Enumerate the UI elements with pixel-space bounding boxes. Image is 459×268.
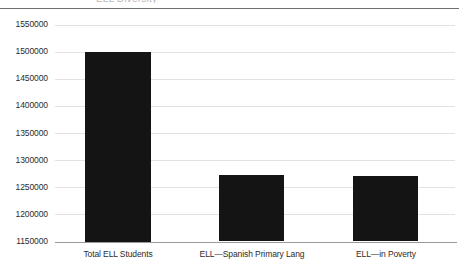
gridline bbox=[55, 25, 455, 26]
y-axis-tick-label: 1150000 bbox=[0, 237, 48, 246]
y-axis-tick-label: 1450000 bbox=[0, 74, 48, 83]
bar bbox=[353, 176, 418, 241]
x-axis-label: ELL—in Poverty bbox=[296, 250, 459, 259]
y-axis-tick-label: 1350000 bbox=[0, 129, 48, 138]
y-axis-tick-label: 1550000 bbox=[0, 20, 48, 29]
y-axis-tick-label: 1500000 bbox=[0, 47, 48, 56]
plot-area: 1550000150000014500001400000135000013000… bbox=[0, 0, 459, 268]
y-axis-tick-label: 1300000 bbox=[0, 156, 48, 165]
y-axis-tick-label: 1250000 bbox=[0, 183, 48, 192]
y-axis-tick-label: 1400000 bbox=[0, 101, 48, 110]
bar bbox=[219, 175, 284, 241]
bar bbox=[85, 52, 151, 242]
y-axis-tick-label: 1200000 bbox=[0, 210, 48, 219]
chart-root: ELL Diversity 15500001500000145000014000… bbox=[0, 0, 459, 268]
